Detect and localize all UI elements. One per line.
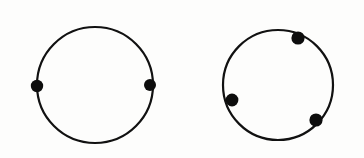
right-circle-dot-south-west[interactable] (226, 94, 239, 107)
right-circle-dot-south-east[interactable] (309, 113, 322, 126)
left-circle-dot-east[interactable] (144, 79, 156, 91)
right-circle-dot-north-east[interactable] (291, 31, 304, 44)
figure-root (0, 0, 364, 158)
left-circle-group (31, 27, 156, 143)
left-circle[interactable] (37, 27, 153, 143)
right-circle-group (223, 30, 333, 140)
figure-canvas (0, 0, 364, 158)
left-circle-dot-west[interactable] (31, 80, 43, 92)
